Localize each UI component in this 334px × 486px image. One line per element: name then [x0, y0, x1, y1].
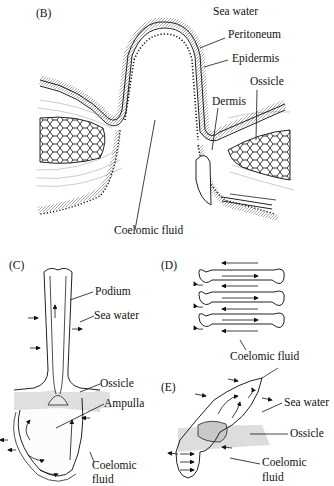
label-sea-water-e: Sea water	[284, 397, 329, 409]
label-coelomic-fluid-e-line1: Coelomic	[262, 457, 307, 469]
panel-e-label: (E)	[161, 382, 176, 394]
label-epidermis: Epidermis	[232, 53, 279, 65]
label-coelomic-fluid-c-line1: Coelomic	[92, 460, 137, 472]
diagram-canvas	[0, 0, 334, 486]
panel-c-label: (C)	[9, 260, 24, 272]
label-sea-water-b: Sea water	[213, 6, 258, 18]
label-ampulla: Ampulla	[104, 398, 144, 410]
label-sea-water-c: Sea water	[94, 310, 139, 322]
label-ossicle-b: Ossicle	[250, 76, 284, 88]
label-coelomic-fluid-e-line2: fluid	[262, 472, 284, 484]
panel-c-drawing	[0, 268, 110, 481]
label-ossicle-e: Ossicle	[290, 428, 324, 440]
panel-b-label: (B)	[36, 8, 51, 20]
label-coelomic-fluid-b: Coelomic fluid	[114, 225, 183, 237]
label-podium: Podium	[95, 286, 131, 298]
label-dermis: Dermis	[212, 96, 246, 108]
label-coelomic-fluid-c-line2: fluid	[92, 474, 114, 486]
label-ossicle-c: Ossicle	[100, 378, 134, 390]
label-peritoneum: Peritoneum	[228, 29, 281, 41]
panel-d-label: (D)	[161, 260, 177, 272]
panel-d-drawing	[194, 263, 284, 350]
label-coelomic-fluid-d: Coelomic fluid	[230, 351, 299, 363]
